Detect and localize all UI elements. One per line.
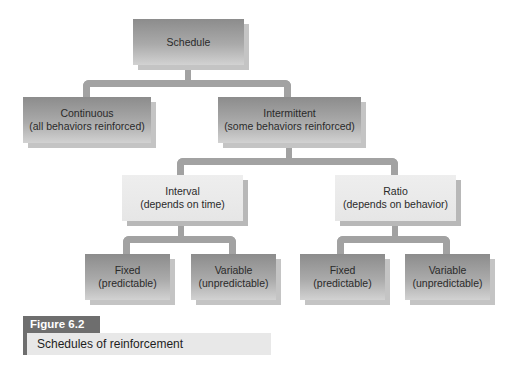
node-interval-fixed: Fixed (predictable) (85, 254, 170, 300)
node-label: Interval (165, 185, 199, 198)
connector-drop-ratio (391, 158, 398, 176)
node-sublabel: (all behaviors reinforced) (29, 120, 145, 133)
connector-drop-interval-variable (229, 236, 236, 255)
node-continuous: Continuous (all behaviors reinforced) (23, 97, 151, 143)
node-intermittent: Intermittent (some behaviors reinforced) (218, 97, 361, 143)
node-label: Variable (215, 264, 253, 277)
node-schedule: Schedule (133, 19, 244, 65)
node-sublabel: (some behaviors reinforced) (224, 120, 355, 133)
node-interval-variable: Variable (unpredictable) (191, 254, 276, 300)
node-label: Continuous (60, 107, 113, 120)
node-ratio: Ratio (depends on behavior) (335, 175, 456, 221)
figure-label: Figure 6.2 (23, 316, 100, 333)
connector-drop-ratio-variable (443, 236, 450, 255)
node-sublabel: (depends on time) (140, 198, 225, 211)
node-sublabel: (depends on behavior) (343, 198, 448, 211)
node-label: Fixed (115, 264, 141, 277)
connector-bar-level2 (177, 158, 398, 165)
node-sublabel: (unpredictable) (412, 277, 482, 290)
node-ratio-fixed: Fixed (predictable) (300, 254, 385, 300)
connector-bar-ratio-children (337, 236, 450, 243)
node-sublabel: (unpredictable) (198, 277, 268, 290)
node-ratio-variable: Variable (unpredictable) (405, 254, 490, 300)
connector-drop-interval-fixed (123, 236, 130, 255)
node-sublabel: (predictable) (98, 277, 156, 290)
node-label: Variable (429, 264, 467, 277)
connector-bar-interval-children (123, 236, 236, 243)
node-label: Intermittent (263, 107, 316, 120)
connector-drop-continuous (83, 80, 90, 98)
connector-drop-intermittent (284, 80, 291, 98)
figure-caption: Schedules of reinforcement (23, 333, 271, 355)
connector-drop-ratio-fixed (337, 236, 344, 255)
node-sublabel: (predictable) (313, 277, 371, 290)
node-interval: Interval (depends on time) (122, 175, 243, 221)
node-label: Fixed (330, 264, 356, 277)
connector-drop-interval (177, 158, 184, 176)
node-label: Ratio (383, 185, 408, 198)
connector-bar-level1 (83, 80, 291, 87)
node-label: Schedule (167, 36, 211, 49)
